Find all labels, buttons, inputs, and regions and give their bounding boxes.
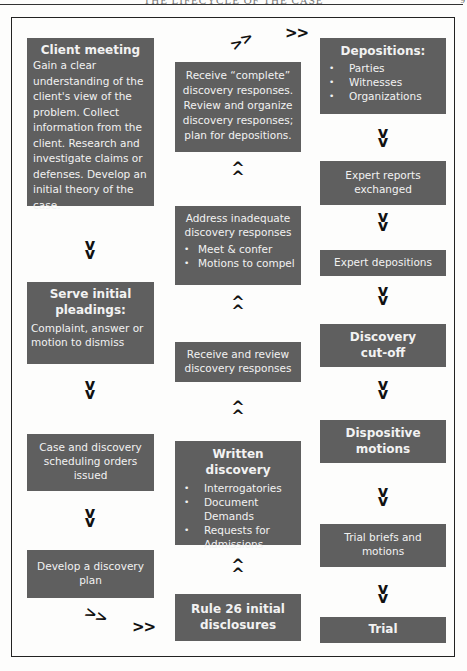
arrow-down-icon: vv xyxy=(80,508,100,526)
bullet-item: Requests for Admissions xyxy=(178,523,298,551)
arrow-up-icon: ^^ xyxy=(228,402,248,420)
step-client-meeting: Client meeting Gain a clear understandin… xyxy=(27,38,154,206)
arrow-down-icon: vv xyxy=(80,240,100,258)
step-discovery-plan: Develop a discovery plan xyxy=(27,550,154,598)
step-serve-pleadings: Serve initial pleadings: Complaint, answ… xyxy=(27,282,154,364)
step-body: Develop a discovery plan xyxy=(31,559,150,587)
bullet-item: Document Demands xyxy=(178,495,298,523)
step-address-inadequate: Address inadequate discovery responses M… xyxy=(175,206,301,285)
step-body: Case and discovery scheduling orders iss… xyxy=(31,440,150,482)
step-title: Client meeting xyxy=(33,42,148,58)
step-dispositive-motions: Dispositive motions xyxy=(320,420,446,463)
arrow-up-icon: ^^ xyxy=(228,297,248,315)
step-scheduling-orders: Case and discovery scheduling orders iss… xyxy=(27,434,154,491)
step-body: Gain a clear understanding of the client… xyxy=(33,58,148,213)
step-title: Rule 26 initial disclosures xyxy=(179,601,297,633)
step-receive-review-responses: Receive and review discovery responses xyxy=(175,342,301,382)
arrow-down-icon: vv xyxy=(373,286,393,304)
bullet-list: Parties Witnesses Organizations xyxy=(323,61,443,103)
arrow-down-icon: vv xyxy=(373,487,393,505)
step-body: Receive and review discovery responses xyxy=(179,347,297,375)
bullet-list: Interrogatories Document Demands Request… xyxy=(178,481,298,551)
arrow-down-icon: vv xyxy=(80,380,100,398)
arrow-right-icon: >> xyxy=(285,26,308,41)
step-body: Address inadequate discovery responses xyxy=(178,211,298,239)
step-title: Written discovery xyxy=(178,446,298,478)
bullet-list: Meet & confer Motions to compel xyxy=(178,242,298,270)
step-expert-reports: Expert reports exchanged xyxy=(320,161,446,205)
step-depositions: Depositions: Parties Witnesses Organizat… xyxy=(320,38,446,114)
arrow-up-icon: ^^ xyxy=(228,163,248,181)
arrow-up-icon: ^^ xyxy=(228,560,248,578)
step-discovery-cutoff: Discovery cut-off xyxy=(320,324,446,367)
step-trial: Trial xyxy=(320,617,446,643)
step-body: Complaint, answer or motion to dismiss xyxy=(31,321,150,349)
step-trial-briefs: Trial briefs and motions xyxy=(320,524,446,567)
step-title: Discovery cut-off xyxy=(324,329,442,361)
step-title: Depositions: xyxy=(323,43,443,59)
header-rule xyxy=(0,4,463,5)
bullet-item: Interrogatories xyxy=(178,481,298,495)
bullet-item: Motions to compel xyxy=(178,256,298,270)
step-body: Expert reports exchanged xyxy=(324,168,442,196)
bullet-item: Parties xyxy=(323,61,443,75)
step-expert-depositions: Expert depositions xyxy=(320,250,446,276)
arrow-right-icon: >> xyxy=(132,620,155,635)
step-body: Trial briefs and motions xyxy=(324,530,442,558)
bullet-item: Witnesses xyxy=(323,75,443,89)
step-title: Dispositive motions xyxy=(324,425,442,457)
step-title: Trial xyxy=(324,621,442,637)
bullet-item: Organizations xyxy=(323,89,443,103)
step-body: Receive “complete” discovery responses. … xyxy=(178,68,298,143)
bullet-item: Meet & confer xyxy=(178,242,298,256)
step-receive-complete-responses: Receive “complete” discovery responses. … xyxy=(175,62,301,152)
step-rule-26-disclosures: Rule 26 initial disclosures xyxy=(175,594,301,641)
step-body: Expert depositions xyxy=(324,255,442,269)
arrow-down-icon: vv xyxy=(373,128,393,146)
arrow-down-icon: vv xyxy=(373,584,393,602)
step-title: Serve initial pleadings: xyxy=(31,286,150,318)
arrow-down-icon: vv xyxy=(373,380,393,398)
arrow-down-icon: vv xyxy=(373,212,393,230)
step-written-discovery: Written discovery Interrogatories Docume… xyxy=(175,441,301,545)
